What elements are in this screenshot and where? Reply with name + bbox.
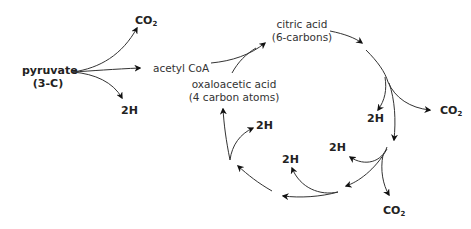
2h-product-pyruvate: 2H	[121, 104, 138, 117]
citric-acid-carbons: (6-carbons)	[270, 31, 334, 44]
co2-product-step2: CO2	[383, 204, 405, 221]
arrow-step1-to-2h	[378, 77, 386, 110]
oxaloacetic-acid-name: oxaloacetic acid	[186, 78, 282, 91]
oxaloacetic-acid-carbons: (4 carbon atoms)	[186, 91, 282, 104]
pyruvate-carbons: (3-C)	[22, 77, 74, 90]
2h-product-step5: 2H	[256, 119, 273, 132]
arrow-pyruvate-to-2h	[73, 72, 122, 98]
co2-text: CO	[440, 104, 457, 117]
co2-product-pyruvate: CO2	[135, 14, 157, 31]
arrow-citric-to-cycle	[330, 31, 362, 43]
arrow-step5-to-2h	[230, 128, 253, 160]
citric-acid-label: citric acid (6-carbons)	[270, 18, 334, 44]
oxaloacetic-acid-label: oxaloacetic acid (4 carbon atoms)	[186, 78, 282, 104]
co2-product-step1: CO2	[440, 104, 462, 121]
pyruvate-name: pyruvate	[22, 64, 74, 77]
pyruvate-label: pyruvate (3-C)	[22, 64, 74, 90]
arrow-acetyl-to-citric	[211, 43, 265, 63]
co2-subscript: 2	[152, 20, 157, 28]
arrow-step2-to-2h	[350, 147, 387, 162]
acetyl-coa-label: acetyl CoA	[153, 62, 209, 75]
arrow-step4-to-step5	[238, 166, 272, 191]
arrow-step2-to-step3	[346, 149, 387, 186]
diagram-arrows	[0, 0, 471, 229]
arrow-step3-to-2h	[292, 168, 338, 193]
citric-acid-name: citric acid	[270, 18, 334, 31]
co2-subscript: 2	[457, 110, 462, 118]
arrow-step5-to-oxalo	[223, 109, 230, 160]
krebs-cycle-diagram: pyruvate (3-C) CO2 2H acetyl CoA citric …	[0, 0, 471, 229]
arrow-pyruvate-to-co2	[73, 28, 137, 72]
2h-product-step1: 2H	[367, 112, 384, 125]
co2-text: CO	[135, 14, 152, 27]
2h-product-step2: 2H	[329, 141, 346, 154]
co2-text: CO	[383, 204, 400, 217]
arrow-step2-to-co2	[382, 155, 389, 195]
2h-product-step3: 2H	[282, 153, 299, 166]
co2-subscript: 2	[400, 210, 405, 218]
